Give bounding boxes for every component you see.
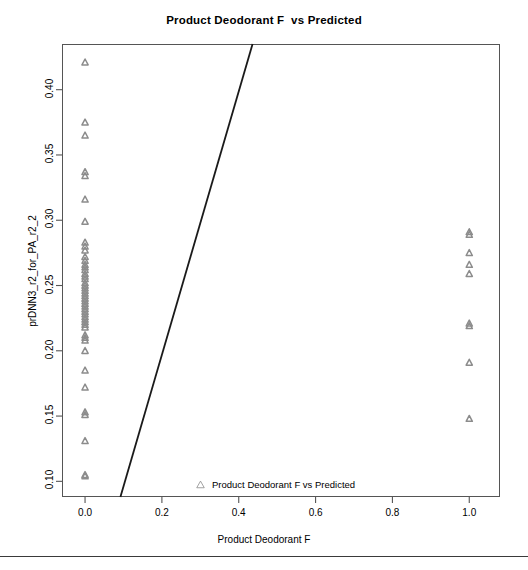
plot-area-frame <box>62 44 500 497</box>
legend-triangle-up-icon <box>196 480 205 489</box>
x-axis-title: Product Deodorant F <box>0 534 528 545</box>
y-axis-title: prDNN3_r2_for_PA_r2_2 <box>27 215 38 327</box>
y-tick-label: 0.15 <box>44 395 55 435</box>
y-tick-label: 0.10 <box>44 460 55 500</box>
y-tick-label: 0.40 <box>44 68 55 108</box>
y-tick-label: 0.30 <box>44 199 55 239</box>
chart-container: Product Deodorant F vs Predicted 0.100.1… <box>0 0 528 570</box>
chart-title: Product Deodorant F vs Predicted <box>0 14 528 26</box>
chart-legend: Product Deodorant F vs Predicted <box>196 479 355 490</box>
x-tick-label: 1.0 <box>449 507 489 518</box>
legend-label: Product Deodorant F vs Predicted <box>212 479 355 490</box>
y-tick-label: 0.25 <box>44 264 55 304</box>
x-tick-label: 0.6 <box>296 507 336 518</box>
x-tick-label: 0.2 <box>142 507 182 518</box>
x-tick-label: 0.4 <box>219 507 259 518</box>
bottom-divider <box>0 556 528 557</box>
x-tick-label: 0.0 <box>65 507 105 518</box>
y-tick-label: 0.20 <box>44 329 55 369</box>
y-tick-label: 0.35 <box>44 133 55 173</box>
x-tick-label: 0.8 <box>372 507 412 518</box>
